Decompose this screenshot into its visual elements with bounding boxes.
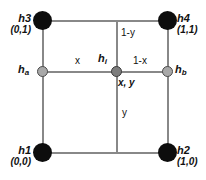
node-label-h1: h1 (0, 145, 31, 157)
label-group-h1: h1 (0,0) (0, 145, 31, 167)
node-label-ha-base: h (18, 63, 25, 75)
node-coord-h2: (1,0) (177, 157, 206, 168)
edge-label-one-minus-y: 1-y (121, 28, 135, 39)
node-label-hb: hb (175, 64, 187, 77)
edge-top (43, 20, 168, 22)
edge-label-one-minus-x: 1-x (133, 56, 147, 67)
node-label-hi: hi (98, 53, 107, 66)
node-coord-h4: (1,1) (177, 25, 206, 36)
node-label-h3: h3 (0, 13, 31, 25)
edge-label-y: y (122, 108, 127, 119)
node-hi (111, 66, 122, 77)
node-h2 (158, 143, 177, 162)
node-coord-h1: (0,0) (0, 157, 31, 168)
edge-right (167, 20, 169, 153)
node-ha (37, 66, 48, 77)
node-label-hb-subscript: b (182, 68, 187, 77)
node-coord-h3: (0,1) (0, 25, 31, 36)
edge-label-x: x (75, 56, 80, 67)
node-label-ha: ha (18, 64, 29, 77)
node-label-h2: h2 (177, 145, 206, 157)
node-label-hi-base: h (98, 52, 105, 64)
edge-bottom (43, 152, 168, 154)
label-group-h3: h3 (0,1) (0, 13, 31, 35)
edge-left (42, 20, 44, 153)
label-group-h2: h2 (1,0) (177, 145, 206, 167)
label-group-h4: h4 (1,1) (177, 13, 206, 35)
node-h1 (33, 143, 52, 162)
node-label-ha-subscript: a (25, 68, 29, 77)
node-label-hi-subscript: i (105, 57, 107, 66)
node-label-hb-base: h (175, 63, 182, 75)
node-coord-hi: x, y (118, 78, 135, 89)
node-h4 (158, 11, 177, 30)
node-hb (162, 66, 173, 77)
node-label-h4: h4 (177, 13, 206, 25)
bilinear-interpolation-diagram: h3 (0,1) h4 (1,1) h1 (0,0) h2 (1,0) ha h… (0, 0, 206, 180)
edge-middle-horizontal (42, 71, 168, 73)
node-h3 (33, 11, 52, 30)
